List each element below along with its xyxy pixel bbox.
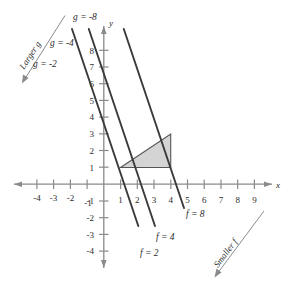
x-tick-label: 8 [235, 195, 240, 205]
y-axis-arrow-up [101, 26, 107, 34]
y-tick-label: -2 [87, 213, 95, 223]
y-tick-label: 8 [90, 46, 95, 56]
y-tick-label: 7 [90, 62, 95, 72]
y-axis-label: y [108, 18, 113, 28]
x-tick-label: 9 [252, 195, 257, 205]
x-tick-label: -2 [67, 193, 75, 203]
y-tick-label: 1 [90, 163, 95, 173]
smaller-f-arrow-line [217, 211, 264, 274]
x-tick-label: 2 [135, 195, 140, 205]
x-tick-label: 3 [152, 195, 157, 205]
y-tick-label: -4 [87, 246, 95, 256]
y-tick-label: 2 [90, 146, 95, 156]
x-tick-label: 1 [118, 195, 123, 205]
y-tick-label: -3 [87, 230, 95, 240]
smaller-f-annotation: Smaller f [212, 211, 264, 278]
x-axis-arrow-right [264, 181, 272, 187]
f-label-8: f = 8 [186, 209, 205, 219]
y-axis-arrow-down [101, 260, 107, 268]
x-tick-label: -3 [50, 193, 58, 203]
x-tick-label: 5 [185, 195, 190, 205]
shaded-feasible-region [121, 134, 171, 167]
f-label-4: f = 4 [156, 232, 175, 242]
smaller-f-label: Smaller f [212, 236, 241, 269]
graph-figure: -4 -3 -2 -1 1 2 3 4 5 6 7 8 9 8 7 6 5 4 … [0, 0, 288, 288]
line-f2-g2 [72, 29, 138, 226]
y-tick-label: 4 [90, 112, 95, 122]
x-tick-label: 4 [169, 195, 174, 205]
g-label-minus-8: g = -8 [73, 12, 97, 22]
larger-g-arrow-head [22, 75, 29, 84]
y-tick-label: 5 [90, 96, 95, 106]
f-line-labels: f = 8 f = 4 f = 2 [140, 209, 205, 258]
x-tick-label: -4 [33, 193, 41, 203]
g-line-labels: g = -8 g = -4 g = -2 [33, 12, 97, 69]
y-tick-label: 3 [90, 129, 95, 139]
g-label-minus-2: g = -2 [33, 59, 57, 69]
y-tick-label: -1 [87, 196, 95, 206]
x-tick-label: 6 [202, 195, 207, 205]
x-axis-arrow-left [14, 181, 22, 187]
x-axis-label: x [275, 180, 280, 190]
g-label-minus-4: g = -4 [50, 38, 74, 48]
x-tick-label: 7 [219, 195, 224, 205]
f-label-2: f = 2 [140, 248, 159, 258]
coordinate-plane-svg: -4 -3 -2 -1 1 2 3 4 5 6 7 8 9 8 7 6 5 4 … [0, 0, 288, 288]
larger-g-annotation: Larger g [17, 16, 65, 84]
